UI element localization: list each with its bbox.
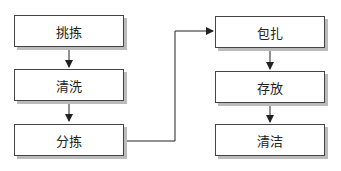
step-wrap: 包扎 (215, 16, 325, 48)
step-sort: 分拣 (14, 124, 124, 156)
step-pick: 挑拣 (14, 15, 124, 47)
step-store: 存放 (215, 71, 325, 103)
step-label: 挑拣 (56, 22, 82, 41)
step-label: 清洗 (56, 76, 82, 95)
step-wash: 清洗 (14, 69, 124, 101)
step-clean: 清洁 (215, 124, 325, 156)
step-label: 分拣 (56, 131, 82, 150)
step-label: 清洁 (257, 131, 283, 150)
step-label: 存放 (257, 78, 283, 97)
step-label: 包扎 (257, 23, 283, 42)
